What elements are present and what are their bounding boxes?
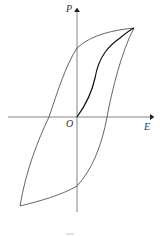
origin-label: O [66, 119, 73, 129]
y-axis-label: P [66, 4, 72, 14]
x-axis-label: E [144, 122, 150, 132]
hysteresis-diagram [0, 0, 160, 236]
